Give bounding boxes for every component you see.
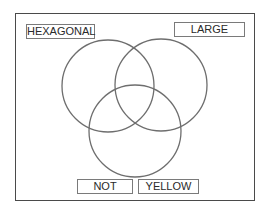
left-circle [62,40,154,132]
label-not: NOT [77,179,133,194]
label-hexagonal: HEXAGONAL [26,24,95,39]
label-large: LARGE [174,22,245,37]
label-yellow: YELLOW [138,179,199,194]
